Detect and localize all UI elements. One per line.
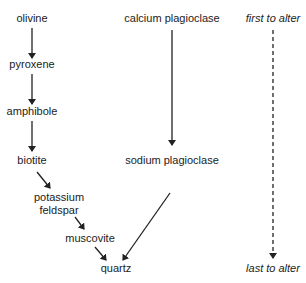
label-sodium-plagioclase: sodium plagioclase bbox=[125, 154, 219, 167]
arrow-feldspar-muscovite bbox=[75, 217, 84, 229]
label-potassium: potassium bbox=[34, 191, 84, 204]
label-feldspar: feldspar bbox=[39, 204, 78, 217]
label-quartz: quartz bbox=[101, 262, 132, 275]
arrow-biotite-feldspar bbox=[37, 172, 50, 188]
arrows-layer bbox=[0, 0, 306, 283]
label-first-to-alter: first to alter bbox=[246, 12, 300, 25]
arrow-muscovite-quartz bbox=[95, 247, 106, 260]
label-calcium-plagioclase: calcium plagioclase bbox=[124, 12, 219, 25]
label-amphibole: amphibole bbox=[7, 105, 58, 118]
label-olivine: olivine bbox=[16, 12, 47, 25]
arrow-sodium-quartz bbox=[123, 193, 170, 260]
label-muscovite: muscovite bbox=[65, 232, 115, 245]
label-biotite: biotite bbox=[17, 154, 46, 167]
label-last-to-alter: last to alter bbox=[246, 262, 300, 275]
label-pyroxene: pyroxene bbox=[9, 58, 54, 71]
